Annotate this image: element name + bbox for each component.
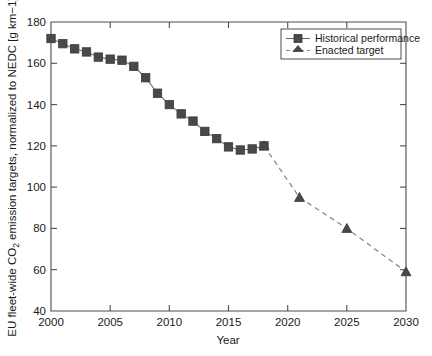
data-point-marker [153,89,161,97]
x-tick-label: 2025 [334,316,360,328]
y-tick-label: 140 [27,99,46,111]
data-point-marker [201,127,209,135]
y-axis-title: EU fleet-wide CO2 emission targets, norm… [6,0,21,337]
x-tick-label: 2000 [38,316,64,328]
x-axis-title: Year [216,334,239,346]
x-tick-label: 2010 [157,316,183,328]
data-point-marker [130,62,138,70]
chart-legend: Historical performance Enacted target [281,29,420,59]
x-tick-labels: 2000 2005 2010 2015 2020 2025 2030 [38,316,419,328]
legend-label-historical: Historical performance [315,32,420,44]
y-tick-labels: 180 160 140 120 100 80 60 40 [27,16,46,317]
data-point-marker [342,223,352,232]
x-tick-label: 2005 [97,316,123,328]
legend-marker-square-icon [294,35,302,43]
x-tick-label: 2015 [216,316,242,328]
series-target [259,141,411,276]
data-point-marker [248,145,256,153]
y-tick-label: 160 [27,57,46,69]
data-point-marker [165,100,173,108]
data-point-marker [177,110,185,118]
y-tick-label: 100 [27,181,46,193]
data-point-marker [106,55,114,63]
y-axis-title-prefix: EU fleet-wide CO [6,248,18,337]
x-tick-label: 2030 [393,316,419,328]
data-point-marker [212,134,220,142]
data-point-marker [47,34,55,42]
series-historical [47,34,268,154]
y-axis-title-suffix: emission targets, normalized to NEDC [g … [6,0,18,243]
data-series-layer [47,34,411,275]
data-point-marker [94,53,102,61]
x-tick-label: 2020 [275,316,301,328]
data-point-marker [189,117,197,125]
data-point-marker [82,48,90,56]
y-tick-label: 80 [33,222,46,234]
data-point-marker [401,267,411,276]
y-tick-label: 60 [33,264,46,276]
chart-svg: EU fleet-wide CO2 emission targets, norm… [0,0,432,356]
x-tick-marks [110,22,347,311]
y-tick-marks [51,63,406,269]
data-point-marker [141,74,149,82]
data-point-marker [236,146,244,154]
y-tick-label: 120 [27,140,46,152]
data-point-marker [59,39,67,47]
svg-text:EU fleet-wide CO2 emission tar: EU fleet-wide CO2 emission targets, norm… [6,0,21,337]
plot-frame [51,22,406,311]
chart-figure: EU fleet-wide CO2 emission targets, norm… [0,0,432,356]
y-tick-label: 180 [27,16,46,28]
legend-label-target: Enacted target [315,44,383,56]
data-point-marker [224,143,232,151]
series-line [264,146,406,272]
data-point-marker [118,56,126,64]
data-point-marker [295,192,305,201]
data-point-marker [70,45,78,53]
